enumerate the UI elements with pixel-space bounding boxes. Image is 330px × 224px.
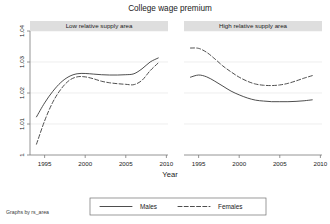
college-wage-premium-chart: College wage premiumLow relative supply …: [0, 0, 330, 224]
x-tick-label-2010-panel2: 2010: [313, 160, 327, 167]
chart-title: College wage premium: [128, 4, 212, 13]
x-tick-label-1995-panel2: 1995: [192, 160, 206, 167]
x-tick-label-2005-panel1: 2005: [119, 160, 133, 167]
y-tick-label-1.02: 1.02: [18, 86, 25, 99]
x-tick-label-2000-panel2: 2000: [232, 160, 246, 167]
series-males-panel1: [36, 58, 158, 117]
x-tick-label-2000-panel1: 2000: [78, 160, 92, 167]
y-tick-label-1.03: 1.03: [18, 55, 25, 68]
x-tick-label-1995-panel1: 1995: [38, 160, 52, 167]
series-females-panel1: [36, 63, 158, 144]
x-axis-label: Year: [162, 170, 178, 179]
x-tick-label-2010-panel1: 2010: [159, 160, 173, 167]
panel-title-2: High relative supply area: [219, 22, 288, 29]
chart-note: Graphs by rs_area: [6, 209, 49, 215]
x-tick-label-2005-panel2: 2005: [273, 160, 287, 167]
legend-label-females: Females: [218, 203, 243, 210]
y-tick-label-1.01: 1.01: [18, 117, 25, 130]
series-males-panel2: [190, 75, 312, 102]
y-tick-label-1: 1: [18, 153, 25, 157]
chart-figure: College wage premiumLow relative supply …: [0, 0, 330, 224]
panel-title-1: Low relative supply area: [66, 22, 133, 29]
legend-label-males: Males: [140, 203, 157, 210]
series-females-panel2: [190, 48, 312, 86]
y-tick-label-1.04: 1.04: [18, 24, 25, 37]
